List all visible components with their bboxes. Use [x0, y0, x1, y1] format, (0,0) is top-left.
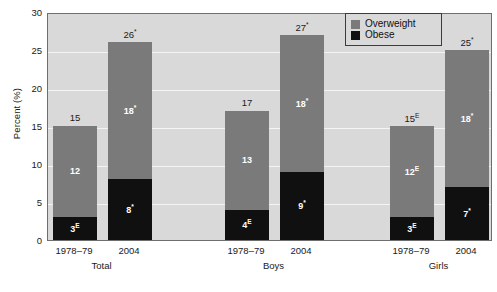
segment-overweight[interactable]: 13 — [225, 111, 269, 210]
y-tick-label: 5 — [16, 198, 42, 208]
overweight-swatch — [351, 20, 360, 29]
segment-overweight[interactable]: 18* — [108, 42, 152, 179]
obese-swatch — [351, 31, 360, 40]
bar-total-label: 26* — [100, 29, 160, 40]
x-tick-label: 1978–79 — [44, 245, 104, 256]
y-tick-label: 20 — [16, 84, 42, 94]
segment-obese-label: 7* — [463, 208, 471, 219]
bar-boys-2004[interactable]: 27*18*9* — [280, 35, 324, 240]
segment-obese-label: 4E — [242, 219, 251, 230]
x-tick-label: 2004 — [271, 245, 331, 256]
segment-obese[interactable]: 3E — [53, 217, 97, 240]
legend-item-overweight[interactable]: Overweight — [351, 19, 436, 29]
segment-overweight-label: 12E — [405, 166, 419, 177]
segment-overweight-label: 18* — [461, 113, 474, 124]
segment-overweight[interactable]: 18* — [445, 50, 489, 187]
bar-girls-2004[interactable]: 25*18*7* — [445, 50, 489, 240]
bar-total-label: 17 — [217, 98, 277, 108]
segment-obese[interactable]: 3E — [390, 217, 434, 240]
y-tick-label: 15 — [16, 122, 42, 132]
bar-total-label: 15 — [45, 113, 105, 123]
bar-girls-197879[interactable]: 15E12E3E — [390, 126, 434, 240]
x-axis: 1978–7920041978–7920041978–792004TotalBo… — [47, 243, 492, 273]
segment-obese[interactable]: 4E — [225, 210, 269, 240]
x-group-label-girls: Girls — [384, 260, 494, 271]
legend-label: Overweight — [365, 19, 416, 29]
segment-overweight-label: 18* — [124, 105, 137, 116]
x-group-label-total: Total — [47, 260, 157, 271]
segment-overweight[interactable]: 12 — [53, 126, 97, 217]
segment-overweight-label: 12 — [70, 167, 80, 176]
legend-label: Obese — [365, 30, 394, 40]
bar-total-label: 15E — [382, 113, 442, 124]
x-tick-label: 2004 — [99, 245, 159, 256]
segment-overweight[interactable]: 12E — [390, 126, 434, 217]
segment-obese-label: 3E — [407, 223, 416, 234]
x-tick-label: 1978–79 — [216, 245, 276, 256]
bar-total-197879[interactable]: 15123E — [53, 126, 97, 240]
y-axis-tick-labels: 051015202530 — [14, 0, 42, 292]
segment-obese-label: 8* — [126, 204, 134, 215]
y-tick-label: 30 — [16, 8, 42, 18]
segment-overweight-label: 13 — [242, 156, 252, 165]
y-tick-label: 0 — [16, 236, 42, 246]
bar-total-label: 25* — [437, 37, 497, 48]
x-tick-label: 2004 — [436, 245, 496, 256]
bar-boys-197879[interactable]: 17134E — [225, 111, 269, 240]
plot-area: 15123E26*18*8*17134E27*18*9*15E12E3E25*1… — [47, 13, 492, 241]
segment-obese-label: 3E — [70, 223, 79, 234]
segment-overweight-label: 18* — [296, 98, 309, 109]
x-tick-label: 1978–79 — [381, 245, 441, 256]
segment-obese[interactable]: 7* — [445, 187, 489, 240]
y-tick-label: 25 — [16, 46, 42, 56]
segment-obese[interactable]: 8* — [108, 179, 152, 240]
x-group-label-boys: Boys — [219, 260, 329, 271]
bar-total-2004[interactable]: 26*18*8* — [108, 42, 152, 240]
bar-total-label: 27* — [272, 22, 332, 33]
chart-legend: OverweightObese — [345, 13, 442, 46]
segment-overweight[interactable]: 18* — [280, 35, 324, 172]
segment-obese[interactable]: 9* — [280, 172, 324, 240]
chart-container: Percent (%) 051015202530 15123E26*18*8*1… — [0, 0, 497, 292]
segment-obese-label: 9* — [298, 200, 306, 211]
legend-item-obese[interactable]: Obese — [351, 30, 436, 40]
y-tick-label: 10 — [16, 160, 42, 170]
